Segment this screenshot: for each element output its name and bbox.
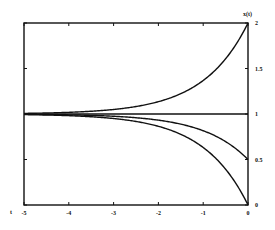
y-tick-label: 1.5 xyxy=(255,66,263,72)
y-tick-label: 0.5 xyxy=(255,157,263,163)
x-tick-label: -4 xyxy=(66,210,71,216)
curve-3 xyxy=(24,115,248,205)
data-curves xyxy=(24,23,248,205)
x-tick-label: 0 xyxy=(247,210,250,216)
x-tick-label: -2 xyxy=(156,210,161,216)
line-chart: -5-4-3-2-10 00.511.52 t x(t) xyxy=(0,0,275,230)
y-tick-label: 1 xyxy=(255,111,258,117)
x-tick-labels: -5-4-3-2-10 xyxy=(22,210,250,216)
y-tick-labels: 00.511.52 xyxy=(255,20,263,208)
x-tick-label: -1 xyxy=(201,210,206,216)
x-tick-label: -3 xyxy=(111,210,116,216)
x-tick-label: -5 xyxy=(22,210,27,216)
y-axis-label: x(t) xyxy=(243,11,252,18)
y-tick-label: 0 xyxy=(255,202,258,208)
curve-0 xyxy=(24,23,248,113)
y-tick-label: 2 xyxy=(255,20,258,26)
x-axis-label: t xyxy=(10,209,12,215)
